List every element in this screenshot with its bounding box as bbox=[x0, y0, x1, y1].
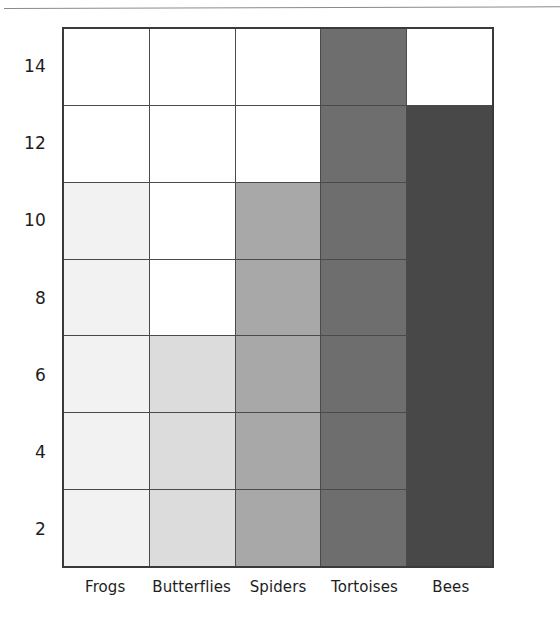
clipped-footer-text: . bbox=[300, 619, 560, 628]
y-axis-tick-labels: 1412108642 bbox=[0, 27, 56, 568]
y-tick-label-14: 14 bbox=[24, 56, 46, 76]
bar-chart-figure: 1412108642 FrogsButterfliesSpidersTortoi… bbox=[0, 0, 560, 628]
plot-area bbox=[62, 27, 494, 568]
bar-columns bbox=[64, 29, 492, 566]
bar-column-bees[interactable] bbox=[407, 29, 492, 566]
x-label-bees: Bees bbox=[408, 578, 494, 596]
bar-spiders[interactable] bbox=[236, 182, 321, 566]
bar-column-frogs[interactable] bbox=[64, 29, 150, 566]
y-tick-label-2: 2 bbox=[35, 519, 46, 539]
bar-bees[interactable] bbox=[407, 106, 492, 566]
y-tick-label-10: 10 bbox=[24, 210, 46, 230]
bar-tortoises[interactable] bbox=[321, 29, 406, 566]
y-tick-label-12: 12 bbox=[24, 133, 46, 153]
bar-column-butterflies[interactable] bbox=[150, 29, 236, 566]
x-label-spiders: Spiders bbox=[235, 578, 321, 596]
x-axis-category-labels: FrogsButterfliesSpidersTortoisesBees bbox=[62, 578, 494, 596]
bar-frogs[interactable] bbox=[64, 182, 149, 566]
x-label-frogs: Frogs bbox=[62, 578, 148, 596]
x-label-tortoises: Tortoises bbox=[321, 578, 407, 596]
x-label-butterflies: Butterflies bbox=[148, 578, 234, 596]
y-tick-label-8: 8 bbox=[35, 288, 46, 308]
y-tick-label-6: 6 bbox=[35, 365, 46, 385]
y-tick-label-4: 4 bbox=[35, 442, 46, 462]
bar-column-spiders[interactable] bbox=[236, 29, 322, 566]
bar-column-tortoises[interactable] bbox=[321, 29, 407, 566]
bar-butterflies[interactable] bbox=[150, 336, 235, 566]
